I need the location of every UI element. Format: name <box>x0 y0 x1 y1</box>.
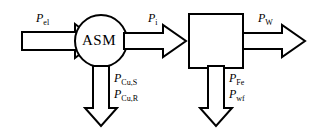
loss-subscript-fe: Fe <box>236 78 244 87</box>
loss-subscript-wf: wf <box>236 94 244 103</box>
loss-label-cu-s: PCu,S <box>114 72 137 87</box>
loss-arrow-iron-friction <box>200 66 232 126</box>
loss-arrow-copper <box>85 66 117 126</box>
flow-arrow-p-i <box>124 25 186 57</box>
flow-subscript-p-w: W <box>265 18 273 27</box>
flow-label-p-el: Pel <box>36 12 49 27</box>
power-flow-diagram: ASM Pel Pi PW PCu,S PCu,R PFe Pwf <box>0 0 314 131</box>
loss-label-fe: PFe <box>229 72 244 87</box>
loss-label-wf: Pwf <box>229 88 245 103</box>
node-mech-square <box>189 14 243 68</box>
flow-label-p-i: Pi <box>148 12 158 27</box>
flow-subscript-p-el: el <box>43 18 49 27</box>
loss-subscript-cu-s: Cu,S <box>121 78 137 87</box>
flow-subscript-p-i: i <box>155 18 157 27</box>
node-asm-label: ASM <box>82 33 116 48</box>
loss-label-cu-r: PCu,R <box>114 88 138 103</box>
flow-arrow-p-w <box>243 25 305 57</box>
loss-subscript-cu-r: Cu,R <box>121 94 138 103</box>
flow-label-p-w: PW <box>258 12 273 27</box>
